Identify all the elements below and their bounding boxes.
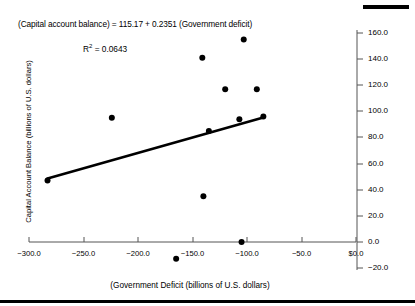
y-tick-label: 140.0 <box>368 54 388 63</box>
x-tick-label: −50.0 <box>282 249 322 258</box>
x-tick-label: −200.0 <box>118 249 158 258</box>
x-tick-label: −300.0 <box>9 249 49 258</box>
data-point <box>206 128 212 134</box>
r-squared-value: = 0.0643 <box>95 44 128 54</box>
data-point <box>200 193 206 199</box>
y-tick-label: 60.0 <box>368 159 384 168</box>
x-tick-label: −250.0 <box>64 249 104 258</box>
data-point <box>109 115 115 121</box>
bottom-rule-decoration <box>0 300 415 303</box>
data-point <box>199 55 205 61</box>
y-tick-label: 160.0 <box>368 28 388 37</box>
data-point <box>236 116 242 122</box>
plot-area <box>0 0 415 306</box>
data-point <box>222 86 228 92</box>
x-tick-label: −150.0 <box>173 249 213 258</box>
y-tick-label: −20.0 <box>368 263 388 272</box>
scatter-chart: (Capital account balance) = 115.17 + 0.2… <box>0 0 415 306</box>
data-point <box>239 239 245 245</box>
y-axis-ticks <box>357 33 363 268</box>
y-tick-label: 80.0 <box>368 132 384 141</box>
regression-equation-annotation: (Capital account balance) = 115.17 + 0.2… <box>18 19 252 29</box>
y-tick-label: 100.0 <box>368 106 388 115</box>
x-tick-label: $0.0 <box>336 249 376 258</box>
y-tick-label: 0.0 <box>368 237 379 246</box>
x-axis-title: (Government Deficit (billions of U.S. do… <box>0 281 380 290</box>
x-axis-ticks <box>29 237 356 242</box>
y-axis-title: Capital Account Balance (billions of U.S… <box>24 42 33 242</box>
trendline <box>48 118 264 179</box>
y-tick-label: 20.0 <box>368 211 384 220</box>
x-tick-label: −100.0 <box>227 249 267 258</box>
r-squared-annotation: R2 = 0.0643 <box>83 43 127 54</box>
data-point <box>241 37 247 43</box>
data-point <box>45 178 51 184</box>
y-tick-label: 120.0 <box>368 80 388 89</box>
r-squared-exponent: 2 <box>89 43 92 49</box>
y-tick-label: 40.0 <box>368 185 384 194</box>
data-point <box>254 86 260 92</box>
data-point <box>260 114 266 120</box>
